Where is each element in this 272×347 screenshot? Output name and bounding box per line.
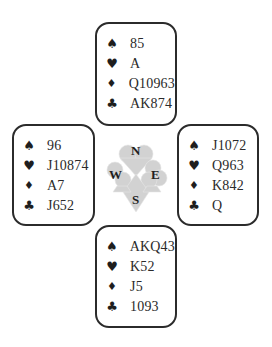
south-diamonds-row: ♦ J5 [97,277,175,297]
heart-icon: ♥ [106,54,118,74]
west-hearts-row: ♥ J10874 [14,156,93,176]
east-hearts-row: ♥ Q963 [179,156,257,176]
club-icon: ♣ [106,94,118,114]
spade-icon: ♠ [188,136,200,156]
north-hearts: A [130,54,140,74]
east-diamonds: K842 [212,176,244,196]
compass-rose: N W E S [103,138,169,214]
east-clubs-row: ♣ Q [179,196,257,216]
north-hand: ♠ 85 ♥ A ♦ Q10963 ♣ AK874 [95,22,177,126]
south-hearts-row: ♥ K52 [97,257,175,277]
west-clubs-row: ♣ J652 [14,196,93,216]
west-diamonds: A7 [47,176,65,196]
west-hearts: J10874 [47,156,89,176]
compass-west-label: W [109,168,122,181]
north-diamonds: Q10963 [129,74,175,94]
diamond-icon: ♦ [106,277,118,297]
east-diamonds-row: ♦ K842 [179,176,257,196]
south-spades: AKQ43 [130,237,175,257]
heart-icon: ♥ [106,257,118,277]
east-spades-row: ♠ J1072 [179,136,257,156]
north-spades-row: ♠ 85 [97,34,175,54]
club-icon: ♣ [106,297,118,317]
spade-icon: ♠ [106,34,118,54]
diamond-icon: ♦ [23,176,35,196]
east-spades: J1072 [212,136,246,156]
south-spades-row: ♠ AKQ43 [97,237,175,257]
south-hearts: K52 [130,257,155,277]
north-clubs: AK874 [130,94,172,114]
east-hand: ♠ J1072 ♥ Q963 ♦ K842 ♣ Q [177,124,259,226]
club-icon: ♣ [23,196,35,216]
south-diamonds: J5 [130,277,143,297]
north-clubs-row: ♣ AK874 [97,94,175,114]
north-diamonds-row: ♦ Q10963 [97,74,175,94]
east-clubs: Q [212,196,222,216]
compass-south-label: S [132,193,139,206]
diamond-icon: ♦ [106,74,117,94]
west-diamonds-row: ♦ A7 [14,176,93,196]
south-hand: ♠ AKQ43 ♥ K52 ♦ J5 ♣ 1093 [95,225,177,328]
west-spades: 96 [47,136,61,156]
west-clubs: J652 [47,196,74,216]
spade-icon: ♠ [23,136,35,156]
compass-east-label: E [151,168,160,181]
compass-north-label: N [131,144,140,157]
south-clubs: 1093 [130,297,159,317]
heart-icon: ♥ [188,156,200,176]
spade-icon: ♠ [106,237,118,257]
club-icon: ♣ [188,196,200,216]
heart-icon: ♥ [23,156,35,176]
north-hearts-row: ♥ A [97,54,175,74]
diamond-icon: ♦ [188,176,200,196]
west-hand: ♠ 96 ♥ J10874 ♦ A7 ♣ J652 [12,124,95,226]
north-spades: 85 [130,34,144,54]
west-spades-row: ♠ 96 [14,136,93,156]
east-hearts: Q963 [212,156,244,176]
south-clubs-row: ♣ 1093 [97,297,175,317]
